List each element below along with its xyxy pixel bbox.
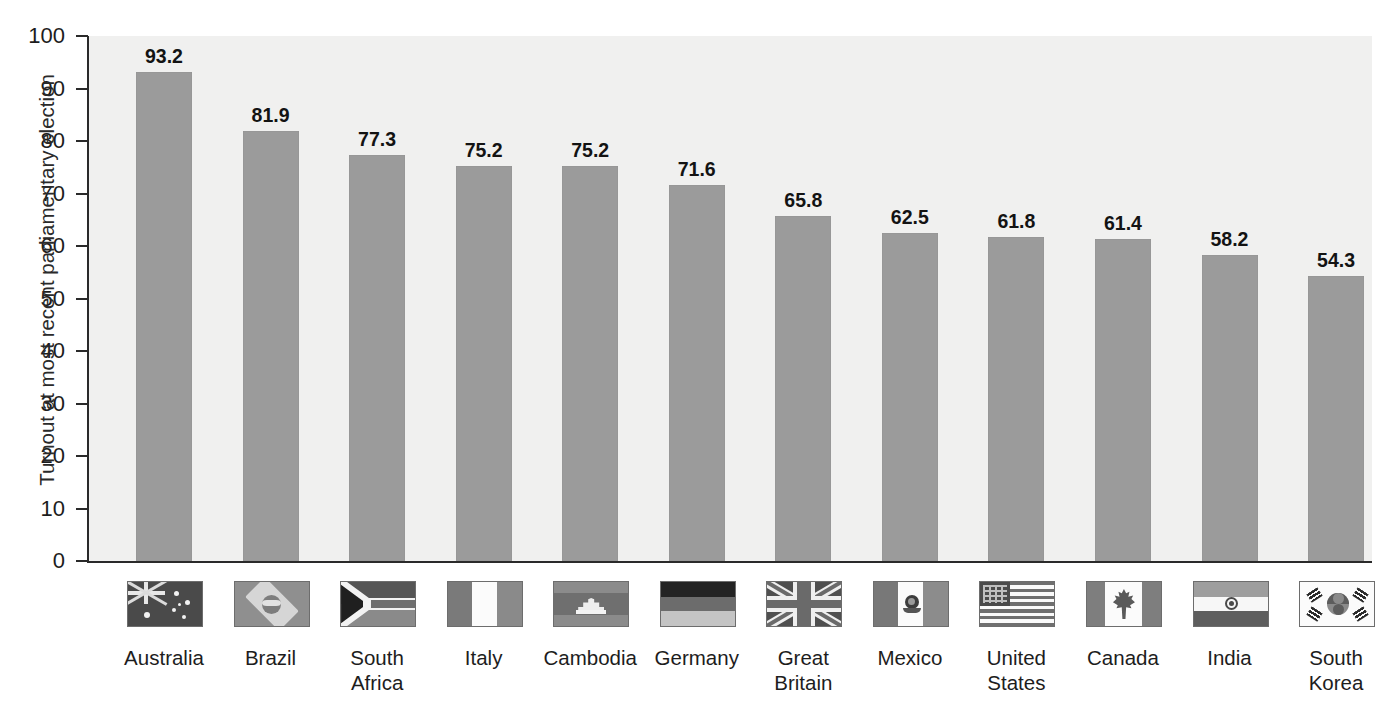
- x-axis-category-label: India: [1168, 645, 1292, 670]
- category-label-line: Germany: [635, 645, 759, 670]
- bar: [1308, 276, 1364, 561]
- flag-mexico: [873, 581, 949, 627]
- bar-value-label: 75.2: [545, 141, 635, 161]
- bar-value-label: 54.3: [1291, 251, 1381, 271]
- bar: [562, 166, 618, 561]
- category-label-line: Korea: [1274, 670, 1398, 695]
- category-label-line: United: [954, 645, 1078, 670]
- bar-value-label: 93.2: [119, 47, 209, 67]
- flag-italy: [447, 581, 523, 627]
- bar-value-label: 58.2: [1185, 230, 1275, 250]
- flag-australia: [127, 581, 203, 627]
- bar: [882, 233, 938, 561]
- x-axis-category-label: SouthAfrica: [315, 645, 439, 695]
- category-label-line: India: [1168, 645, 1292, 670]
- category-label-line: South: [315, 645, 439, 670]
- x-axis-category-label: Australia: [102, 645, 226, 670]
- bar-value-label: 75.2: [439, 141, 529, 161]
- flag-south-korea: [1299, 581, 1375, 627]
- bar: [1095, 239, 1151, 561]
- x-axis-category-label: Italy: [422, 645, 546, 670]
- category-label-line: States: [954, 670, 1078, 695]
- category-label-line: Brazil: [209, 645, 333, 670]
- bar-value-label: 62.5: [865, 208, 955, 228]
- bar: [988, 237, 1044, 561]
- category-label-line: Italy: [422, 645, 546, 670]
- bar: [456, 166, 512, 561]
- category-label-line: Mexico: [848, 645, 972, 670]
- x-axis-category-label: Germany: [635, 645, 759, 670]
- flag-south-africa: [340, 581, 416, 627]
- x-axis-category-label: GreatBritain: [741, 645, 865, 695]
- bar-value-label: 77.3: [332, 130, 422, 150]
- x-axis-category-label: Mexico: [848, 645, 972, 670]
- bar: [669, 185, 725, 561]
- bar: [136, 72, 192, 561]
- category-label-line: Africa: [315, 670, 439, 695]
- category-label-line: Great: [741, 645, 865, 670]
- category-label-line: Canada: [1061, 645, 1185, 670]
- x-axis-category-label: UnitedStates: [954, 645, 1078, 695]
- flag-canada: [1086, 581, 1162, 627]
- flag-united-states: [979, 581, 1055, 627]
- x-axis-category-label: Brazil: [209, 645, 333, 670]
- category-label-line: Australia: [102, 645, 226, 670]
- flag-cambodia: [553, 581, 629, 627]
- category-label-line: Britain: [741, 670, 865, 695]
- flag-great-britain: [766, 581, 842, 627]
- x-axis-category-label: Canada: [1061, 645, 1185, 670]
- category-label-line: South: [1274, 645, 1398, 670]
- category-label-line: Cambodia: [528, 645, 652, 670]
- bar: [243, 131, 299, 561]
- bar: [775, 216, 831, 561]
- bar: [349, 155, 405, 561]
- flag-germany: [660, 581, 736, 627]
- x-axis-category-label: Cambodia: [528, 645, 652, 670]
- bar-value-label: 61.8: [971, 212, 1061, 232]
- bar-value-label: 71.6: [652, 160, 742, 180]
- bar-value-label: 61.4: [1078, 214, 1168, 234]
- bar-value-label: 81.9: [226, 106, 316, 126]
- flag-india: [1193, 581, 1269, 627]
- bar: [1202, 255, 1258, 561]
- bar-value-label: 65.8: [758, 191, 848, 211]
- flag-brazil: [234, 581, 310, 627]
- x-axis-category-label: SouthKorea: [1274, 645, 1398, 695]
